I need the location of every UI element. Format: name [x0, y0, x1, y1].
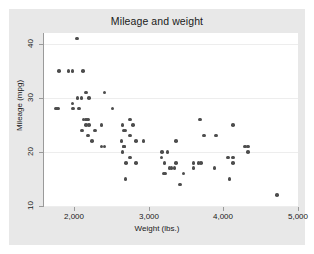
- scatter-point: [246, 145, 250, 149]
- scatter-point: [77, 107, 81, 111]
- scatter-point: [226, 156, 230, 160]
- scatter-point: [166, 150, 170, 154]
- x-tick-mark-5000: [298, 207, 299, 211]
- scatter-point: [275, 193, 279, 197]
- scatter-point: [128, 156, 132, 160]
- x-axis-title: Weight (lbs.): [9, 224, 305, 233]
- scatter-point: [182, 172, 186, 176]
- y-tick-mark-40: [39, 44, 43, 45]
- scatter-point: [80, 96, 84, 100]
- scatter-point: [228, 177, 232, 181]
- scatter-point: [246, 150, 250, 154]
- y-tick-mark-30: [39, 98, 43, 99]
- scatter-point: [231, 161, 235, 165]
- scatter-point: [100, 123, 104, 127]
- scatter-point: [128, 134, 132, 138]
- scatter-point: [198, 118, 202, 122]
- x-tick-label-2000: 2,000: [54, 212, 94, 221]
- scatter-point: [134, 161, 138, 165]
- gridline-y-10: [44, 206, 298, 207]
- scatter-point: [121, 123, 125, 127]
- scatter-point: [121, 150, 125, 154]
- x-tick-label-5000: 5,000: [278, 212, 314, 221]
- y-tick-label-40: 40: [26, 37, 35, 51]
- scatter-point: [142, 139, 146, 143]
- scatter-point: [75, 37, 79, 41]
- y-tick-mark-10: [39, 206, 43, 207]
- x-tick-mark-2000: [74, 207, 75, 211]
- scatter-point: [81, 69, 85, 73]
- scatter-point: [202, 134, 206, 138]
- x-tick-mark-4000: [223, 207, 224, 211]
- y-tick-mark-20: [39, 152, 43, 153]
- gridline-y-20: [44, 152, 298, 153]
- scatter-point: [213, 166, 217, 170]
- scatter-point: [120, 139, 124, 143]
- scatter-point: [174, 139, 178, 143]
- scatter-point: [67, 69, 71, 73]
- x-tick-label-3000: 3,000: [129, 212, 169, 221]
- scatter-point: [71, 107, 75, 111]
- scatter-point: [173, 166, 177, 170]
- x-tick-label-4000: 4,000: [203, 212, 243, 221]
- scatter-point: [214, 134, 218, 138]
- scatter-point: [128, 118, 132, 122]
- scatter-point: [163, 161, 167, 165]
- scatter-point: [131, 123, 135, 127]
- scatter-point: [93, 129, 97, 133]
- plot-area: [44, 33, 298, 206]
- scatter-point: [84, 118, 88, 122]
- scatter-point: [192, 166, 196, 170]
- scatter-point: [178, 183, 182, 187]
- scatter-point: [90, 139, 94, 143]
- scatter-point: [111, 107, 115, 111]
- figure: Mileage and weight 10203040 2,0003,0004,…: [0, 0, 314, 254]
- scatter-point: [124, 161, 128, 165]
- scatter-point: [124, 129, 128, 133]
- y-tick-label-20: 20: [26, 145, 35, 159]
- scatter-point: [80, 129, 84, 133]
- page-title: Mileage and weight: [9, 15, 305, 27]
- scatter-point: [160, 156, 164, 160]
- scatter-point: [231, 123, 235, 127]
- gridline-y-40: [44, 44, 298, 45]
- scatter-point: [122, 145, 126, 149]
- scatter-point: [76, 96, 80, 100]
- graph-region: Mileage and weight 10203040 2,0003,0004,…: [9, 9, 305, 245]
- scatter-point: [84, 91, 88, 95]
- scatter-point: [174, 161, 178, 165]
- y-tick-label-30: 30: [26, 91, 35, 105]
- scatter-point: [103, 145, 107, 149]
- scatter-point: [124, 177, 128, 181]
- scatter-point: [71, 102, 75, 106]
- scatter-point: [160, 150, 164, 154]
- scatter-point: [57, 69, 61, 73]
- y-tick-label-10: 10: [26, 199, 35, 213]
- scatter-point: [71, 69, 75, 73]
- scatter-point: [192, 161, 196, 165]
- scatter-point: [84, 123, 88, 127]
- scatter-point: [199, 161, 203, 165]
- scatter-point: [103, 91, 107, 95]
- scatter-point: [86, 134, 90, 138]
- scatter-point: [231, 156, 235, 160]
- scatter-point: [87, 96, 91, 100]
- scatter-point: [134, 139, 138, 143]
- x-tick-mark-3000: [149, 207, 150, 211]
- y-axis-title: Mileage (mpg): [15, 66, 24, 146]
